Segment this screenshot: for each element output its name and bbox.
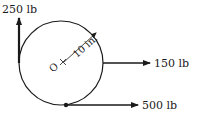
radius-label: 10 in. <box>71 32 100 59</box>
force-label-250: 250 lb <box>2 3 37 16</box>
center-label: O <box>47 61 60 75</box>
free-body-diagram: 250 lb 150 lb 500 lb O 10 in. <box>0 0 197 124</box>
force-label-150: 150 lb <box>154 57 189 70</box>
force-label-500: 500 lb <box>142 99 177 112</box>
center-mark-icon <box>60 59 66 65</box>
